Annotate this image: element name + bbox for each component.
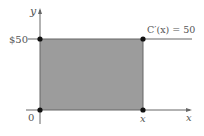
shaded-area [40,39,143,110]
point-x-top [140,36,145,41]
point-x [140,107,145,112]
point-origin [37,107,42,112]
x-tick-label: x [140,113,146,124]
y-axis-label: y [29,5,37,18]
y-axis-arrow-icon [38,8,42,14]
curve-label: C′(x) = 50 [147,24,195,35]
point-origin-top [37,36,42,41]
origin-label: 0 [28,112,34,123]
chart: y $50 0 x x C′(x) = 50 [0,0,204,136]
y-tick-label: $50 [9,34,28,45]
x-axis-label: x [186,112,192,123]
